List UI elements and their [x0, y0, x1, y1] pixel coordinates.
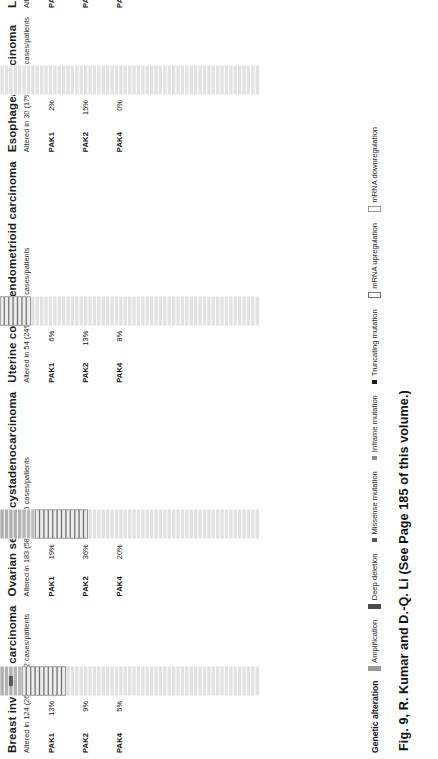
gene-percent: 6% — [47, 326, 56, 352]
legend-item-label: Deep deletion — [370, 553, 379, 600]
legend-title: Genetic alteration — [370, 680, 380, 753]
gene-label: PAK2 — [81, 121, 90, 152]
gene-percent: 36% — [81, 539, 90, 565]
legend-item-label: mRNA upregulation — [370, 223, 379, 289]
gene-row[interactable]: PAK1 14% — [36, 0, 66, 8]
gene-label: PAK4 — [115, 352, 124, 383]
legend-item-inframe-mutation: Inframe mutation — [370, 395, 379, 460]
amplification-swatch-icon — [368, 666, 381, 671]
legend-item-label: Amplification — [370, 620, 379, 663]
gene-row-list: PAK1 14% PAK2 16% PAK4 16% — [36, 0, 134, 8]
legend-item-truncating-mutation: Truncating mutation — [370, 309, 379, 384]
oncoprint-track[interactable] — [0, 666, 264, 696]
legend-item-mrna-upregulation: mRNA upregulation — [368, 223, 381, 298]
gene-row[interactable]: PAK4 8% — [104, 161, 134, 383]
gene-label: PAK1 — [47, 352, 56, 383]
gene-row[interactable]: PAK2 13% — [70, 161, 100, 383]
gene-percent: 0% — [115, 95, 124, 121]
panel-lung-adenocarcinoma: Lung adenocarcinoma Altered in 94 (41%) … — [6, 0, 134, 8]
panel-title: Ovarian serous cystadenocarcinoma — [6, 392, 18, 597]
legend-item-label: mRNA downregulation — [370, 127, 379, 203]
gene-percent: 19% — [47, 539, 56, 565]
gene-percent: 13% — [81, 326, 90, 352]
missense-mutation-swatch-icon — [372, 538, 377, 543]
gene-row[interactable]: PAK4 0% — [104, 17, 134, 152]
gene-percent: 2% — [47, 95, 56, 121]
gene-row-list: PAK1 19% PAK2 36% PAK4 20% — [36, 392, 134, 597]
legend-and-caption: Genetic alteration Amplification Deep de… — [368, 4, 411, 755]
panel-title: Uterine corpus endometrioid carcinoma — [6, 161, 18, 383]
gene-percent: 5% — [115, 696, 124, 722]
gene-label: PAK4 — [115, 722, 124, 753]
gene-label: PAK1 — [47, 565, 56, 596]
gene-percent: 9% — [81, 696, 90, 722]
oncoprint-track[interactable] — [0, 65, 264, 95]
gene-row-list: PAK1 2% PAK2 15% PAK4 0% — [36, 17, 134, 152]
oncoprint-track[interactable] — [0, 296, 264, 326]
gene-percent: 15% — [81, 95, 90, 121]
deep-deletion-swatch-icon — [368, 604, 381, 609]
gene-row[interactable]: PAK2 16% — [70, 0, 100, 8]
gene-label: PAK2 — [81, 565, 90, 596]
gene-row-list: PAK1 6% PAK2 13% PAK4 8% — [36, 161, 134, 383]
panel-ovarian-serous-cystadenocarcinoma: Ovarian serous cystadenocarcinoma Altere… — [6, 392, 134, 597]
truncating-mutation-swatch-icon — [372, 380, 377, 385]
panel-breast-invasive-carcinoma: Breast invasive carcinoma Altered in 124… — [6, 605, 134, 753]
gene-row-list: PAK1 13% PAK2 9% PAK4 5% — [36, 605, 134, 753]
mrna-downregulation-swatch-icon — [368, 206, 381, 212]
legend-item-deep-deletion: Deep deletion — [368, 553, 381, 608]
gene-percent: 13% — [47, 696, 56, 722]
legend-item-label: Missense mutation — [370, 471, 379, 534]
gene-row[interactable]: PAK1 6% — [36, 161, 66, 383]
legend: Genetic alteration Amplification Deep de… — [368, 4, 381, 753]
legend-item-label: Truncating mutation — [370, 309, 379, 376]
gene-label: PAK4 — [115, 121, 124, 152]
figure-caption: Fig. 9, R. Kumar and D.-Q. Li (See Page … — [397, 4, 411, 753]
figure-rotation-container: Breast invasive carcinoma Altered in 124… — [0, 0, 438, 759]
gene-row[interactable]: PAK4 16% — [104, 0, 134, 8]
gene-row[interactable]: PAK4 20% — [104, 392, 134, 597]
gene-percent: 20% — [115, 539, 124, 565]
gene-label: PAK2 — [81, 722, 90, 753]
gene-label: PAK4 — [115, 0, 124, 8]
gene-label: PAK4 — [115, 565, 124, 596]
panel-uterine-corpus-endometrioid-carcinoma: Uterine corpus endometrioid carcinoma Al… — [6, 161, 134, 383]
oncoprint-figure: Breast invasive carcinoma Altered in 124… — [0, 0, 438, 759]
legend-item-label: Inframe mutation — [370, 395, 379, 452]
panel-list: Breast invasive carcinoma Altered in 124… — [6, 4, 358, 755]
mrna-upregulation-swatch-icon — [368, 292, 381, 298]
gene-label: PAK1 — [47, 0, 56, 8]
gene-row[interactable]: PAK1 19% — [36, 392, 66, 597]
inframe-mutation-swatch-icon — [372, 456, 377, 461]
legend-item-missense-mutation: Missense mutation — [370, 471, 379, 542]
gene-row[interactable]: PAK4 5% — [104, 605, 134, 753]
panel-esophageal-carcinoma: Esophageal carcinoma Altered in 30 (17%)… — [6, 17, 134, 152]
gene-label: PAK1 — [47, 722, 56, 753]
gene-percent: 8% — [115, 326, 124, 352]
oncoprint-track[interactable] — [0, 509, 264, 539]
gene-label: PAK2 — [81, 352, 90, 383]
gene-label: PAK1 — [47, 121, 56, 152]
panel-title: Lung adenocarcinoma — [6, 0, 18, 8]
panel-subtitle: Altered in 183 (58%) of 316 cases/patien… — [22, 392, 31, 597]
legend-item-mrna-downregulation: mRNA downregulation — [368, 127, 381, 212]
legend-item-amplification: Amplification — [368, 620, 381, 672]
gene-label: PAK2 — [81, 0, 90, 8]
panel-subtitle: Altered in 54 (24%) of 232 cases/patient… — [22, 161, 31, 383]
gene-row[interactable]: PAK2 36% — [70, 392, 100, 597]
panel-subtitle: Altered in 94 (41%) of 230 cases/patient… — [22, 0, 31, 8]
